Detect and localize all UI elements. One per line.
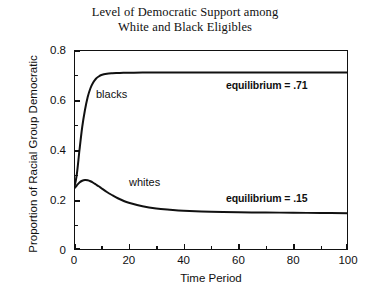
- x-tick-label-80: 80: [273, 254, 313, 266]
- x-axis-title: Time Period: [74, 272, 348, 284]
- x-tick-label-60: 60: [218, 254, 258, 266]
- equilibrium-label-whites: equilibrium = .15: [226, 192, 307, 204]
- x-tick-label-0: 0: [54, 254, 94, 266]
- y-tick-label-0.8: 0.8: [50, 44, 66, 56]
- series-label-blacks: blacks: [96, 88, 127, 100]
- equilibrium-label-blacks: equilibrium = .71: [226, 79, 307, 91]
- y-tick-label-0.2: 0.2: [50, 194, 66, 206]
- x-tick-label-20: 20: [109, 254, 149, 266]
- series-label-whites: whites: [129, 176, 160, 188]
- plot-area: blacks whites equilibrium = .71 equilibr…: [74, 50, 348, 250]
- chart-title-line-2: White and Black Eligibles: [0, 20, 370, 35]
- y-axis-title: Proportion of Racial Group Democratic: [27, 49, 39, 259]
- chart-title-line-1: Level of Democratic Support among: [0, 5, 370, 20]
- x-tick-label-100: 100: [328, 254, 368, 266]
- chart-title: Level of Democratic Support among White …: [0, 5, 370, 35]
- y-tick-label-0.4: 0.4: [50, 144, 66, 156]
- chart-figure: Level of Democratic Support among White …: [0, 0, 370, 307]
- y-tick-label-0.6: 0.6: [50, 94, 66, 106]
- x-tick-label-40: 40: [164, 254, 204, 266]
